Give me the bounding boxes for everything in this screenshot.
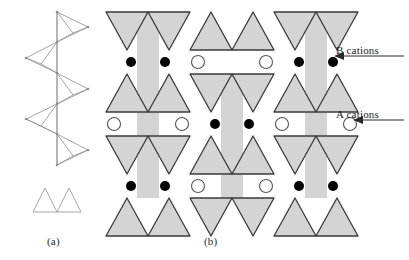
waist-band (221, 74, 243, 198)
figure-root: B cations A cations (a) (b) (0, 0, 409, 260)
panel-a-caption: (a) (47, 235, 60, 247)
a-cations-label: A cations (336, 108, 379, 120)
panel-b-caption: (b) (204, 235, 217, 247)
a-cation (260, 180, 273, 193)
b-cation (294, 57, 304, 67)
chain-node (56, 11, 59, 14)
b-cations-label: B cations (336, 44, 379, 56)
waist-band-upper (137, 12, 159, 136)
a-cation (192, 56, 205, 69)
chain-node-apex (87, 26, 90, 29)
a-cation (260, 56, 273, 69)
waist-band (305, 12, 327, 136)
chain-node (56, 164, 59, 167)
chain-node-apex (87, 149, 90, 152)
a-cation (108, 118, 121, 131)
b-cation (210, 119, 220, 129)
chain-node-apex (25, 118, 28, 121)
b-cation (244, 119, 254, 129)
chain-node (56, 72, 59, 75)
a-cation (176, 118, 189, 131)
b-cation (160, 181, 170, 191)
chain-node (56, 103, 59, 106)
b-cation (126, 57, 136, 67)
figure-canvas (0, 0, 409, 260)
b-cation (294, 181, 304, 191)
chain-node-apex (87, 88, 90, 91)
b-cation (160, 57, 170, 67)
a-cation (276, 118, 289, 131)
chain-node (56, 133, 59, 136)
chain-node-apex (25, 57, 28, 60)
b-cation (126, 181, 136, 191)
b-cation (328, 181, 338, 191)
a-cation (192, 180, 205, 193)
chain-node (56, 41, 59, 44)
b-cation (328, 57, 338, 67)
